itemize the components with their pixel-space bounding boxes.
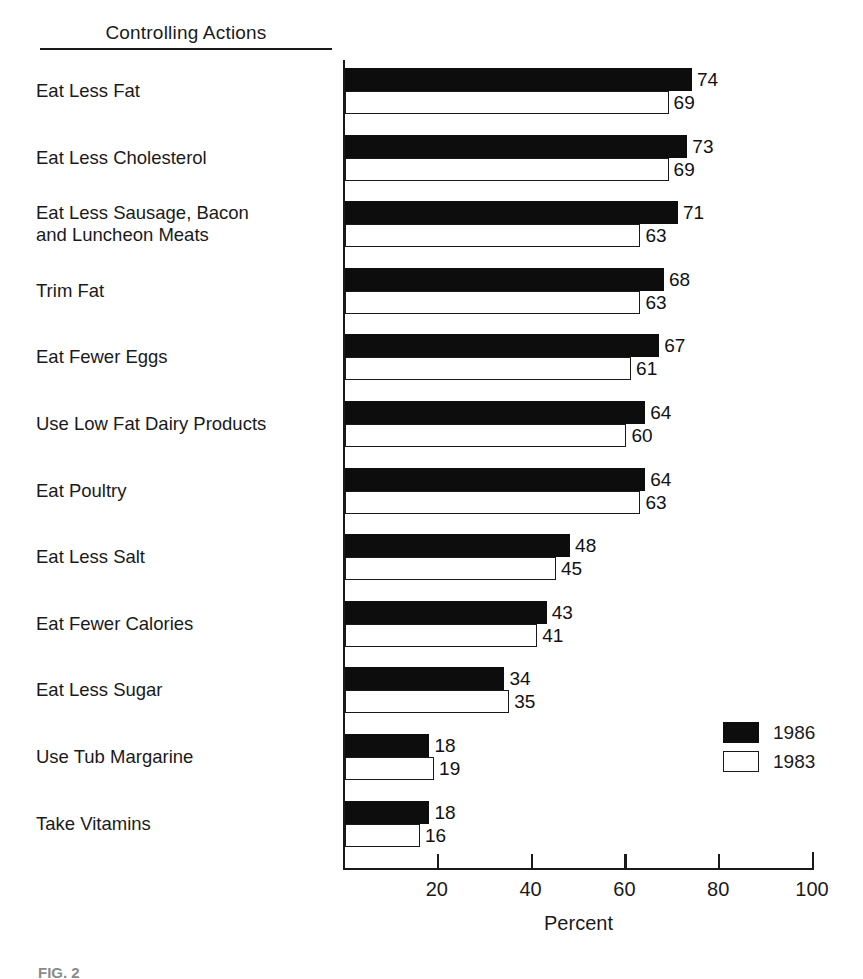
category-label: Trim Fat xyxy=(36,280,336,302)
bar-group: 7163 xyxy=(345,201,814,247)
bar-group: 4341 xyxy=(345,601,814,647)
bar-value-label: 60 xyxy=(626,424,652,447)
bar-1983[interactable] xyxy=(345,624,537,647)
bar-1983[interactable] xyxy=(345,291,640,314)
bar-value-label: 34 xyxy=(504,667,530,690)
bar-value-label: 35 xyxy=(509,690,535,713)
x-tick-label: 80 xyxy=(707,878,729,901)
bar-1986[interactable] xyxy=(345,268,664,291)
bar-value-label: 69 xyxy=(669,91,695,114)
header-divider xyxy=(40,48,332,50)
bar-1983[interactable] xyxy=(345,158,669,181)
legend-swatch-filled-icon xyxy=(723,722,759,743)
bar-group: 6761 xyxy=(345,334,814,380)
category-label-line: Eat Less Sugar xyxy=(36,679,336,701)
bar-1983[interactable] xyxy=(345,424,626,447)
bar-group: 3435 xyxy=(345,667,814,713)
category-label: Take Vitamins xyxy=(36,813,336,835)
x-tick xyxy=(437,854,439,868)
category-label: Use Low Fat Dairy Products xyxy=(36,413,336,435)
bar-1986[interactable] xyxy=(345,534,570,557)
bar-group: 6463 xyxy=(345,468,814,514)
bar-1986[interactable] xyxy=(345,734,429,757)
bar-1983[interactable] xyxy=(345,91,669,114)
bar-1983[interactable] xyxy=(345,557,556,580)
category-label: Use Tub Margarine xyxy=(36,746,336,768)
category-label: Eat Less Fat xyxy=(36,80,336,102)
category-label: Eat Less Sausage, Baconand Luncheon Meat… xyxy=(36,202,336,246)
legend-swatch-hollow-icon xyxy=(723,751,759,772)
category-label-line: Eat Less Sausage, Bacon xyxy=(36,202,336,224)
legend-item-1986[interactable]: 1986 xyxy=(723,718,815,747)
bar-1983[interactable] xyxy=(345,690,509,713)
chart-header: Controlling Actions xyxy=(40,22,332,50)
legend-label: 1983 xyxy=(773,751,815,773)
category-label-line: Eat Less Salt xyxy=(36,546,336,568)
category-label-line: Use Low Fat Dairy Products xyxy=(36,413,336,435)
bar-value-label: 19 xyxy=(434,757,460,780)
bar-group: 6460 xyxy=(345,401,814,447)
bar-1983[interactable] xyxy=(345,757,434,780)
bar-value-label: 43 xyxy=(547,601,573,624)
bar-1986[interactable] xyxy=(345,667,504,690)
bar-1986[interactable] xyxy=(345,334,659,357)
category-label-line: Eat Fewer Calories xyxy=(36,613,336,635)
bar-1986[interactable] xyxy=(345,401,645,424)
bar-value-label: 18 xyxy=(429,734,455,757)
category-label-line: and Luncheon Meats xyxy=(36,224,336,246)
x-tick-label: 40 xyxy=(519,878,541,901)
x-tick xyxy=(718,854,720,868)
bar-value-label: 74 xyxy=(692,68,718,91)
x-axis-line xyxy=(343,868,814,870)
bar-1983[interactable] xyxy=(345,357,631,380)
bar-group: 7369 xyxy=(345,135,814,181)
category-label-line: Trim Fat xyxy=(36,280,336,302)
bar-1983[interactable] xyxy=(345,491,640,514)
x-tick-label: 100 xyxy=(795,878,828,901)
category-label-line: Eat Less Cholesterol xyxy=(36,147,336,169)
bar-value-label: 61 xyxy=(631,357,657,380)
bar-1986[interactable] xyxy=(345,801,429,824)
bar-value-label: 64 xyxy=(645,468,671,491)
bar-value-label: 48 xyxy=(570,534,596,557)
bar-1986[interactable] xyxy=(345,601,547,624)
bar-1986[interactable] xyxy=(345,468,645,491)
bar-group: 4845 xyxy=(345,534,814,580)
category-label-line: Use Tub Margarine xyxy=(36,746,336,768)
bar-value-label: 45 xyxy=(556,557,582,580)
bar-value-label: 73 xyxy=(687,135,713,158)
bar-1983[interactable] xyxy=(345,824,420,847)
category-label: Eat Less Salt xyxy=(36,546,336,568)
page-title: Controlling Actions xyxy=(40,22,332,44)
x-tick xyxy=(812,852,814,868)
bar-value-label: 64 xyxy=(645,401,671,424)
category-label-line: Eat Fewer Eggs xyxy=(36,346,336,368)
x-tick xyxy=(531,854,533,868)
x-tick-label: 20 xyxy=(426,878,448,901)
bar-value-label: 67 xyxy=(659,334,685,357)
legend-label: 1986 xyxy=(773,722,815,744)
bar-1986[interactable] xyxy=(345,135,687,158)
category-label: Eat Poultry xyxy=(36,480,336,502)
bar-value-label: 41 xyxy=(537,624,563,647)
bar-value-label: 63 xyxy=(640,224,666,247)
bar-value-label: 63 xyxy=(640,491,666,514)
bar-group: 7469 xyxy=(345,68,814,114)
figure-caption: FIG. 2 xyxy=(38,964,80,979)
bar-1983[interactable] xyxy=(345,224,640,247)
x-tick xyxy=(624,854,626,868)
bar-value-label: 16 xyxy=(420,824,446,847)
chart-legend: 1986 1983 xyxy=(723,718,815,776)
bar-group: 6863 xyxy=(345,268,814,314)
category-label: Eat Fewer Eggs xyxy=(36,346,336,368)
x-tick-label: 60 xyxy=(613,878,635,901)
category-label-line: Take Vitamins xyxy=(36,813,336,835)
x-axis-title: Percent xyxy=(343,912,814,935)
bar-1986[interactable] xyxy=(345,68,692,91)
bar-value-label: 69 xyxy=(669,158,695,181)
legend-item-1983[interactable]: 1983 xyxy=(723,747,815,776)
category-label: Eat Less Cholesterol xyxy=(36,147,336,169)
bar-1986[interactable] xyxy=(345,201,678,224)
category-label: Eat Fewer Calories xyxy=(36,613,336,635)
bar-value-label: 68 xyxy=(664,268,690,291)
